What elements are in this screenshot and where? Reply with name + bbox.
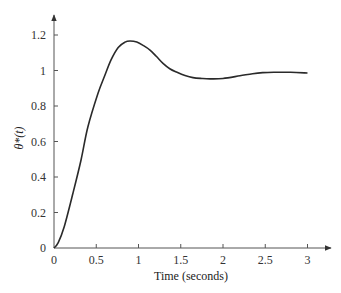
x-tick-label: 1.5	[173, 253, 188, 267]
y-axis-label: θ*(t)	[12, 126, 26, 149]
y-tick-label: 0.6	[31, 135, 46, 149]
y-tick-label: 0	[40, 241, 46, 255]
x-tick-label: 0	[51, 253, 57, 267]
axes	[54, 15, 331, 248]
x-axis-label: Time (seconds)	[154, 269, 228, 283]
x-tick-label: 1	[136, 253, 142, 267]
y-tick-label: 1.2	[31, 28, 46, 42]
response-chart: 00.511.522.53 00.20.40.60.811.2 Time (se…	[0, 0, 341, 293]
y-tick-label: 1	[40, 64, 46, 78]
series-group	[54, 41, 308, 248]
series-line-0	[54, 41, 308, 248]
x-tick-label: 2.5	[258, 253, 273, 267]
x-ticks: 00.511.522.53	[51, 244, 311, 267]
x-tick-label: 3	[305, 253, 311, 267]
x-tick-label: 2	[220, 253, 226, 267]
x-tick-label: 0.5	[89, 253, 104, 267]
y-tick-label: 0.8	[31, 99, 46, 113]
y-tick-label: 0.4	[31, 170, 46, 184]
y-tick-label: 0.2	[31, 206, 46, 220]
